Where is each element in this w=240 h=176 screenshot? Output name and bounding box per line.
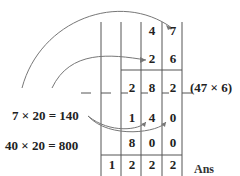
answer-digit: 2 (164, 158, 182, 172)
partial-digit: 0 (164, 111, 182, 125)
equation: 40 × 20 = 800 (5, 139, 78, 153)
partial-digit: 1 (123, 111, 141, 125)
partial-digit: 0 (164, 136, 182, 150)
partial-digit: 8 (143, 81, 161, 95)
partial-digit: 2 (164, 81, 182, 95)
multiplicand-digit: 4 (143, 24, 161, 38)
partial-digit: 0 (143, 136, 161, 150)
partial-digit: 2 (123, 81, 141, 95)
partial-label: (47 × 6) (190, 81, 232, 95)
partial-digit: 4 (143, 111, 161, 125)
multiplier-digit: 2 (143, 52, 161, 66)
answer-digit: 2 (143, 158, 161, 172)
equation: 7 × 20 = 140 (12, 109, 79, 123)
answer-digit: 1 (103, 158, 121, 172)
multiplier-digit: 6 (164, 52, 182, 66)
answer-label: Ans (194, 162, 214, 176)
answer-digit: 2 (123, 158, 141, 172)
multiplicand-digit: 7 (164, 24, 182, 38)
partial-digit: 8 (123, 136, 141, 150)
